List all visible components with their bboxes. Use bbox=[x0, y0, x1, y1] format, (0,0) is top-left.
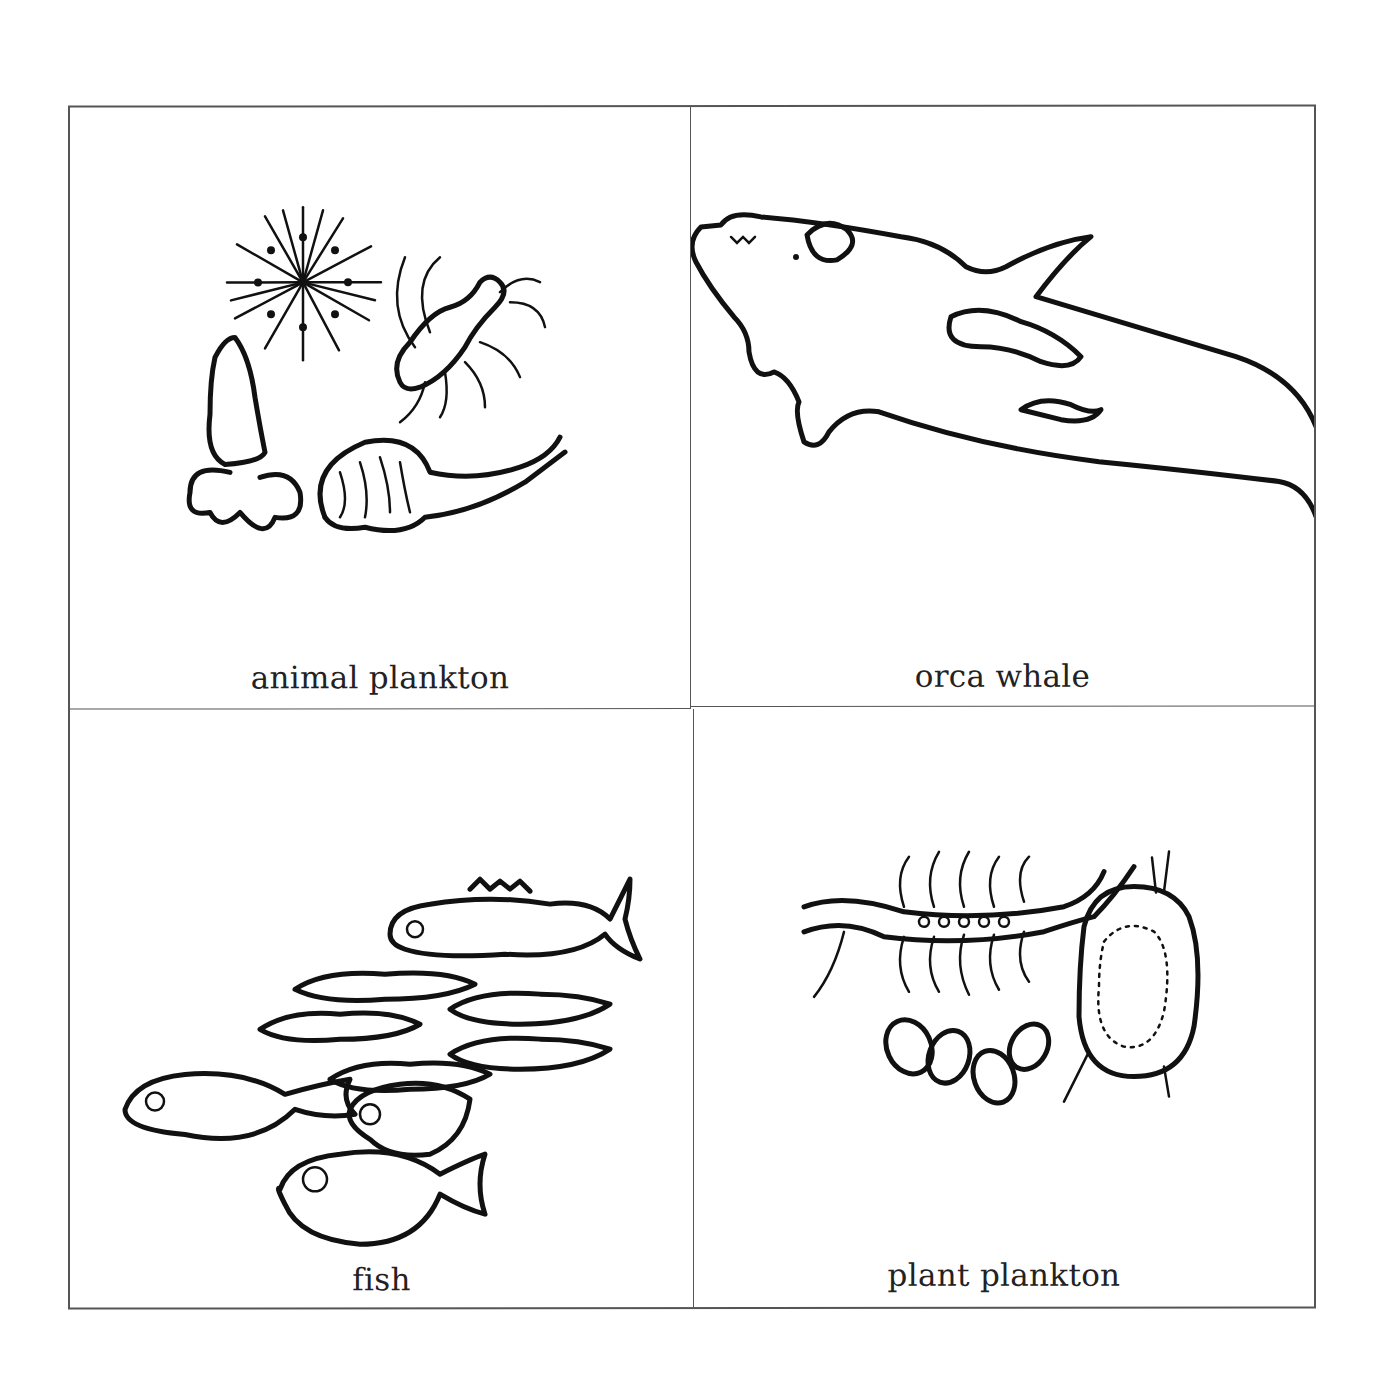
orca-whale-icon bbox=[691, 106, 1314, 707]
panel-label-plant-plankton: plant plankton bbox=[694, 1256, 1314, 1293]
plant-plankton-icon bbox=[694, 706, 1314, 1307]
panel-label-orca-whale: orca whale bbox=[691, 657, 1314, 694]
panel-fish: fish bbox=[70, 709, 694, 1308]
panel-plant-plankton: plant plankton bbox=[694, 706, 1314, 1307]
picture-card-grid: animal plankton orca whale bbox=[68, 104, 1316, 1309]
animal-plankton-icon bbox=[70, 107, 691, 708]
panel-label-animal-plankton: animal plankton bbox=[70, 659, 690, 696]
panel-orca-whale: orca whale bbox=[691, 106, 1314, 707]
panel-label-fish: fish bbox=[70, 1261, 693, 1298]
fish-school-icon bbox=[70, 709, 694, 1308]
panel-animal-plankton: animal plankton bbox=[70, 107, 691, 710]
